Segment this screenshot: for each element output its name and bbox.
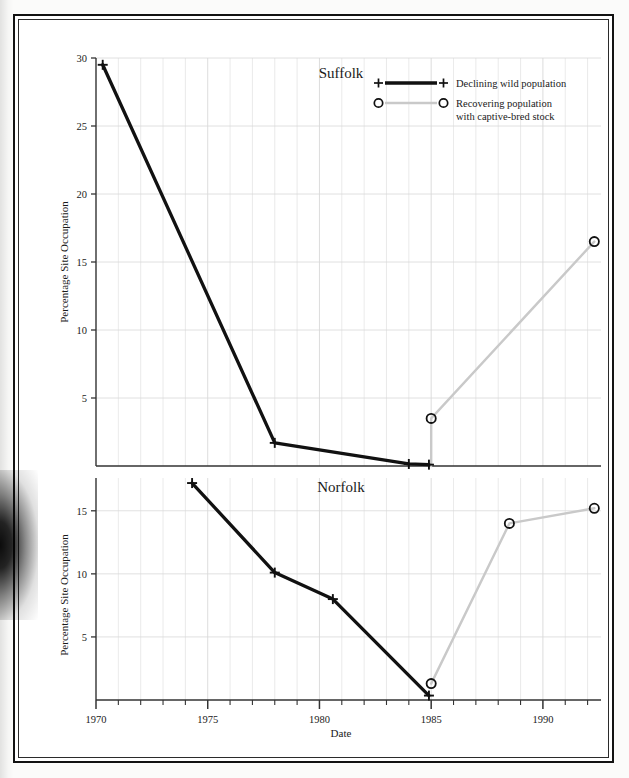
suffolk-declining-series (98, 60, 434, 470)
suffolk-recovering-series (427, 237, 599, 466)
suffolk-y-axis-label: Percentage Site Occupation (58, 201, 70, 323)
legend-recovering-label-line2: with captive-bred stock (456, 111, 555, 122)
x-tick-label: 1970 (86, 714, 107, 725)
scanned-page: 51015202530 Percentage Site Occupation S… (0, 0, 629, 778)
norfolk-horizontal-gridlines (96, 511, 601, 637)
legend-item-recovering[interactable]: Recovering population with captive-bred … (374, 98, 555, 122)
legend-declining-label: Declining wild population (456, 78, 567, 89)
y-tick-label: 25 (77, 121, 88, 132)
norfolk-y-axis-label: Percentage Site Occupation (58, 534, 70, 656)
suffolk-horizontal-gridlines (96, 58, 601, 398)
y-tick-label: 5 (82, 393, 87, 404)
norfolk-declining-series (187, 478, 434, 701)
x-tick-label: 1990 (532, 714, 553, 725)
suffolk-y-ticks: 51015202530 (77, 53, 97, 404)
legend: Declining wild population Recovering pop… (374, 78, 567, 122)
x-tick-label: 1985 (421, 714, 442, 725)
norfolk-panel-title: Norfolk (317, 479, 365, 495)
norfolk-panel: 51015 19701975198019851990 Percentage Si… (58, 478, 601, 739)
y-tick-label: 30 (77, 53, 88, 64)
x-tick-label: 1975 (197, 714, 218, 725)
suffolk-panel-title: Suffolk (319, 65, 364, 81)
y-tick-label: 15 (77, 257, 88, 268)
norfolk-vertical-gridlines (118, 478, 587, 700)
figure-canvas: 51015202530 Percentage Site Occupation S… (0, 0, 629, 778)
norfolk-recovering-series (427, 504, 599, 689)
y-tick-label: 10 (77, 325, 88, 336)
norfolk-y-ticks: 51015 (77, 506, 97, 643)
norfolk-x-ticks: 19701975198019851990 (86, 700, 588, 725)
legend-recovering-label-line1: Recovering population (456, 98, 553, 109)
y-tick-label: 20 (77, 189, 88, 200)
x-axis-label: Date (331, 727, 352, 739)
y-tick-label: 5 (82, 632, 87, 643)
legend-item-declining[interactable]: Declining wild population (374, 78, 567, 89)
x-tick-label: 1980 (309, 714, 330, 725)
y-tick-label: 10 (77, 569, 88, 580)
y-tick-label: 15 (77, 506, 88, 517)
